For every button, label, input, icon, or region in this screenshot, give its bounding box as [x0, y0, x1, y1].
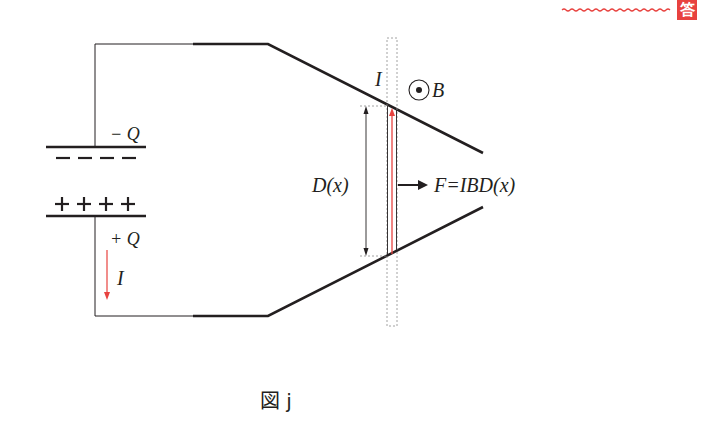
wavy-underline	[562, 9, 670, 11]
length-dimension-arrow	[364, 106, 369, 256]
circuit-wire	[95, 44, 193, 316]
sliding-rod	[388, 106, 397, 256]
magnetic-field-out-icon	[409, 80, 429, 100]
capacitor: − Q + Q I	[46, 124, 146, 300]
answer-marker: 答	[562, 0, 697, 20]
lower-rail	[193, 207, 483, 316]
capacitor-current-arrow	[104, 250, 110, 300]
magnetic-field-label: B	[432, 79, 444, 101]
force-label: F=IBD(x)	[433, 174, 516, 197]
rod-current-label: I	[374, 68, 383, 90]
figure-caption: 図 j	[260, 389, 292, 413]
top-charge-label: − Q	[110, 124, 140, 144]
capacitor-current-label: I	[116, 267, 125, 289]
capacitor-rail-diagram: 答 − Q + Q I	[0, 0, 718, 435]
length-label: D(x)	[311, 174, 349, 197]
dimension-extension-lines	[360, 106, 388, 256]
positive-charges	[55, 197, 135, 211]
answer-badge-label: 答	[680, 1, 696, 19]
bottom-charge-label: + Q	[110, 229, 140, 249]
force-arrow	[398, 180, 428, 190]
